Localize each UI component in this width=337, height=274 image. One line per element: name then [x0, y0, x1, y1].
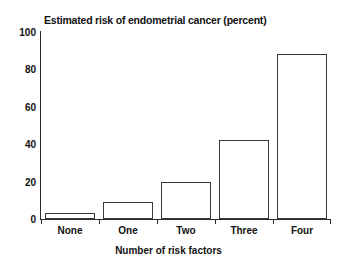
x-label-none: None — [41, 225, 99, 236]
bar-one — [103, 202, 153, 219]
plot-area — [41, 32, 330, 219]
x-label-two: Two — [157, 225, 215, 236]
y-tick-label-60: 60 — [2, 101, 36, 112]
bar-three — [219, 140, 269, 219]
bar-none — [45, 213, 95, 219]
x-axis-title: Number of risk factors — [0, 245, 337, 256]
chart-title: Estimated risk of endometrial cancer (pe… — [44, 14, 266, 26]
x-tick-4 — [273, 219, 274, 224]
y-tick-label-0: 0 — [2, 214, 36, 225]
bar-two — [161, 182, 211, 219]
x-label-four: Four — [273, 225, 331, 236]
x-tick-5 — [330, 219, 331, 224]
x-tick-0 — [41, 219, 42, 224]
bar-four — [277, 54, 327, 219]
x-tick-2 — [157, 219, 158, 224]
y-tick-label-100: 100 — [2, 27, 36, 38]
x-tick-3 — [215, 219, 216, 224]
x-tick-1 — [99, 219, 100, 224]
bar-chart-figure: Estimated risk of endometrial cancer (pe… — [0, 0, 337, 274]
x-label-one: One — [99, 225, 157, 236]
x-label-three: Three — [215, 225, 273, 236]
y-axis-tick-labels: 100 80 60 40 20 0 — [0, 0, 36, 274]
y-tick-label-40: 40 — [2, 139, 36, 150]
x-axis-line — [40, 219, 331, 220]
y-tick-label-80: 80 — [2, 64, 36, 75]
y-tick-label-20: 20 — [2, 176, 36, 187]
